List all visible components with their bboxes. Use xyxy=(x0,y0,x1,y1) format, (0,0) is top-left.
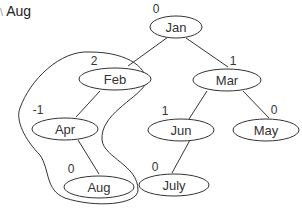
node-mar: Mar 1 xyxy=(193,54,261,91)
node-label: Apr xyxy=(55,122,76,137)
node-july: July 0 xyxy=(139,160,209,196)
edge-jan-mar xyxy=(186,38,228,67)
edge-jun-july xyxy=(172,140,190,173)
balance-factor: 0 xyxy=(153,2,160,16)
node-feb: Feb 2 xyxy=(79,54,151,90)
balance-factor: 1 xyxy=(162,104,169,118)
balance-factor: -1 xyxy=(33,103,44,117)
edge-jan-feb xyxy=(128,37,168,66)
node-jan: Jan 0 xyxy=(150,2,202,38)
balance-factor: 1 xyxy=(230,54,237,68)
balance-factor: 2 xyxy=(91,54,98,68)
node-label: May xyxy=(254,123,279,138)
node-aug: Aug 0 xyxy=(64,162,134,198)
edge-apr-aug xyxy=(78,140,99,174)
node-label: Jan xyxy=(166,20,187,35)
edge-feb-apr xyxy=(76,91,100,117)
node-label: Aug xyxy=(87,180,110,195)
node-label: Mar xyxy=(216,73,239,88)
node-jun: Jun 1 xyxy=(148,104,214,141)
balance-factor: 0 xyxy=(152,160,159,174)
node-label: Jun xyxy=(171,123,192,138)
edge-mar-jun xyxy=(189,91,207,119)
edges xyxy=(76,37,269,174)
edge-mar-may xyxy=(243,91,269,118)
node-apr: Apr -1 xyxy=(32,103,98,140)
node-may: May 0 xyxy=(233,103,299,141)
avl-tree-diagram: Jan 0 Feb 2 Mar 1 Apr -1 Jun 1 May 0 Aug… xyxy=(0,0,302,215)
balance-factor: 0 xyxy=(68,162,75,176)
node-label: Feb xyxy=(104,72,126,87)
balance-factor: 0 xyxy=(271,103,278,117)
node-label: July xyxy=(162,178,186,193)
